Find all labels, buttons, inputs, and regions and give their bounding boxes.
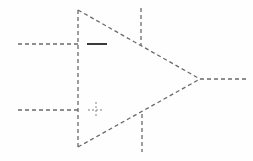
canvas-background xyxy=(0,0,253,161)
schematic-canvas xyxy=(0,0,253,161)
opamp-symbol-drawing xyxy=(0,0,253,161)
